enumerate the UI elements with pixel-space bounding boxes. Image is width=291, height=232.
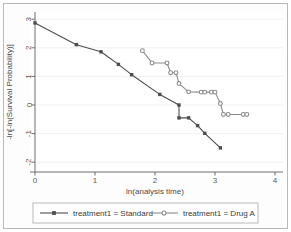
data-point-marker: [219, 146, 222, 149]
x-axis-tick-label: 2: [153, 176, 158, 185]
data-point-marker: [158, 93, 161, 96]
data-point-marker: [196, 124, 199, 127]
data-point-marker: [213, 90, 217, 94]
legend-marker: [162, 211, 166, 215]
data-point-marker: [75, 43, 78, 46]
data-point-marker: [174, 71, 178, 75]
x-axis-tick-label: 3: [213, 176, 218, 185]
data-point-marker: [117, 63, 120, 66]
x-axis-title: ln(analysis time): [126, 187, 184, 196]
data-point-marker: [245, 113, 249, 117]
data-point-marker: [99, 50, 102, 53]
x-axis-tick-label: 0: [33, 176, 38, 185]
legend-marker: [52, 211, 56, 215]
data-point-marker: [226, 113, 230, 117]
data-point-marker: [169, 71, 173, 75]
y-axis-tick-label: -2: [25, 158, 34, 166]
y-axis-tick-label: -1: [25, 129, 34, 137]
data-point-marker: [187, 116, 190, 119]
survival-plot-figure: -2-1012301234ln(analysis time)-ln[-ln(Su…: [0, 0, 291, 232]
data-point-marker: [203, 132, 206, 135]
y-axis-tick-label: 1: [25, 74, 34, 79]
data-point-marker: [177, 116, 180, 119]
y-axis-tick-label: 0: [25, 102, 34, 107]
x-axis-tick-label: 4: [273, 176, 278, 185]
data-point-marker: [187, 90, 191, 94]
data-point-marker: [177, 103, 180, 106]
data-point-marker: [141, 49, 145, 53]
y-axis-tick-label: 2: [25, 45, 34, 50]
legend-label: treatment1 = Standard: [73, 209, 153, 218]
x-axis-tick-label: 1: [93, 176, 98, 185]
data-point-marker: [222, 113, 226, 117]
data-point-marker: [150, 61, 154, 65]
data-point-marker: [177, 82, 181, 86]
log-log-survival-chart: -2-1012301234ln(analysis time)-ln[-ln(Su…: [0, 0, 291, 232]
y-axis-tick-label: 3: [25, 16, 34, 21]
data-point-marker: [203, 90, 207, 94]
data-point-marker: [165, 61, 169, 65]
y-axis-title: -ln[-ln(Survival Probability)]: [5, 44, 14, 140]
data-point-marker: [130, 73, 133, 76]
legend-label: treatment1 = Drug A: [183, 209, 255, 218]
data-point-marker: [219, 102, 223, 106]
data-point-marker: [33, 21, 36, 24]
